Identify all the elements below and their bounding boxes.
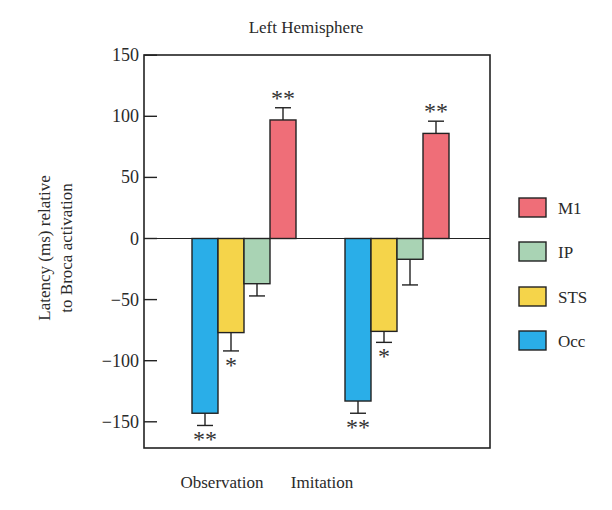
- significance-marker: **: [271, 85, 295, 111]
- legend-swatch-occ: [519, 331, 546, 350]
- bar-occ: [345, 239, 371, 402]
- significance-marker: *: [378, 343, 390, 369]
- legend-label-m1: M1: [558, 199, 582, 218]
- bar-occ: [192, 239, 218, 414]
- legend-label-ip: IP: [558, 243, 573, 262]
- bar-sts: [371, 239, 397, 332]
- legend-label-sts: STS: [558, 288, 587, 307]
- y-tick-label: 100: [112, 106, 139, 126]
- y-tick-label: −50: [111, 290, 139, 310]
- significance-marker: **: [346, 414, 370, 440]
- y-tick-label: −100: [102, 351, 139, 371]
- x-category-label: Observation: [180, 473, 264, 492]
- bar-m1: [270, 120, 296, 239]
- significance-marker: **: [424, 98, 448, 124]
- legend-swatch-m1: [519, 198, 546, 217]
- bar-chart: 150100500−50−100−150Latency (ms) relativ…: [0, 0, 612, 510]
- y-axis-label: Latency (ms) relativeto Broca activation: [35, 175, 76, 320]
- significance-marker: **: [193, 426, 217, 452]
- legend-swatch-ip: [519, 242, 546, 261]
- bar-sts: [218, 239, 244, 333]
- y-axis-label-line: to Broca activation: [57, 183, 76, 313]
- legend-label-occ: Occ: [558, 332, 586, 351]
- bar-ip: [397, 239, 423, 260]
- y-tick-label: 0: [130, 229, 139, 249]
- y-tick-label: 50: [121, 167, 139, 187]
- legend-swatch-sts: [519, 287, 546, 306]
- bar-ip: [244, 239, 270, 284]
- bar-m1: [423, 133, 449, 238]
- x-category-label: Imitation: [291, 473, 354, 492]
- significance-marker: *: [225, 352, 237, 378]
- y-tick-label: 150: [112, 45, 139, 65]
- y-axis-label-line: Latency (ms) relative: [35, 175, 54, 320]
- y-tick-label: −150: [102, 412, 139, 432]
